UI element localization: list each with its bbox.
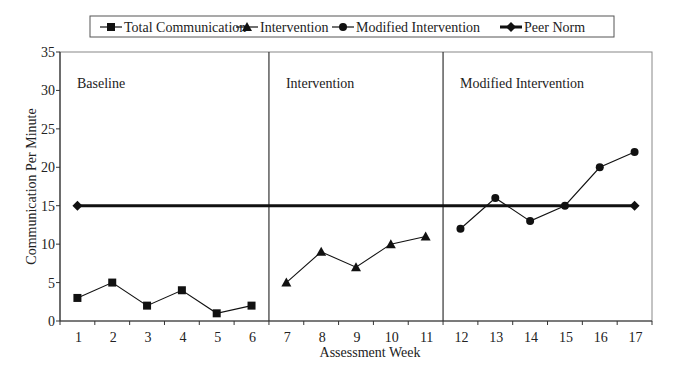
y-axis-title: Communication Per Minute — [24, 108, 39, 264]
x-tick-label: 7 — [284, 330, 291, 345]
series-intervention — [281, 231, 430, 286]
svg-text:Intervention: Intervention — [260, 20, 328, 35]
line-chart: Total CommunicationInterventionModified … — [0, 0, 676, 372]
x-tick-label: 3 — [145, 330, 152, 345]
series-modified-intervention — [456, 148, 638, 233]
x-tick-label: 6 — [249, 330, 256, 345]
x-tick-label: 8 — [319, 330, 326, 345]
phase-label: Baseline — [77, 76, 125, 91]
legend: Total CommunicationInterventionModified … — [90, 16, 614, 37]
x-tick-label: 2 — [110, 330, 117, 345]
x-tick-label: 13 — [489, 330, 503, 345]
x-tick-label: 5 — [214, 330, 221, 345]
x-tick-label: 17 — [629, 330, 643, 345]
svg-text:Modified Intervention: Modified Intervention — [356, 20, 480, 35]
series-total-communication — [73, 279, 255, 318]
y-tick-label: 25 — [41, 122, 55, 137]
x-tick-label: 16 — [594, 330, 608, 345]
x-tick-label: 14 — [524, 330, 538, 345]
phase-label: Intervention — [286, 76, 354, 91]
y-tick-label: 0 — [48, 314, 55, 329]
x-tick-label: 11 — [420, 330, 433, 345]
y-tick-label: 35 — [41, 45, 55, 60]
series-peer-norm — [72, 201, 639, 211]
y-tick-label: 5 — [48, 276, 55, 291]
y-tick-label: 10 — [41, 237, 55, 252]
y-tick-label: 15 — [41, 199, 55, 214]
phase-label: Modified Intervention — [460, 76, 584, 91]
x-tick-label: 9 — [354, 330, 361, 345]
x-tick-label: 12 — [454, 330, 468, 345]
x-tick-label: 1 — [75, 330, 82, 345]
x-tick-label: 10 — [385, 330, 399, 345]
plot-area: 051015202530351234567891011121314151617A… — [24, 45, 652, 360]
y-tick-label: 20 — [41, 160, 55, 175]
svg-text:Total Communication: Total Communication — [124, 20, 246, 35]
plot-frame — [60, 52, 652, 321]
svg-text:Peer Norm: Peer Norm — [524, 20, 585, 35]
x-tick-label: 4 — [179, 330, 186, 345]
x-tick-label: 15 — [559, 330, 573, 345]
x-axis-title: Assessment Week — [320, 345, 421, 360]
y-tick-label: 30 — [41, 83, 55, 98]
